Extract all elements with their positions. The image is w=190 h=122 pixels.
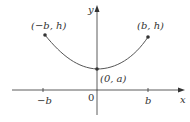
point-label-0-a: (0, a) [100, 73, 127, 84]
y-axis-arrow-icon [95, 5, 100, 12]
origin-label: 0 [88, 92, 94, 103]
catenary-curve [45, 35, 148, 69]
x-axis-arrow-icon [178, 88, 185, 93]
point-label-neg-b-h: (−b, h) [31, 20, 66, 31]
catenary-diagram: y x 0 −b b (−b, h) (b, h) (0, a) [0, 0, 190, 122]
x-axis-label: x [180, 94, 186, 105]
tick-label-neg-b: −b [37, 95, 52, 106]
tick-label-b: b [145, 95, 151, 106]
point-neg-b-h [43, 33, 47, 37]
point-label-b-h: (b, h) [137, 20, 164, 31]
y-axis-label: y [87, 4, 94, 15]
point-b-h [146, 35, 150, 39]
point-0-a [95, 67, 99, 71]
